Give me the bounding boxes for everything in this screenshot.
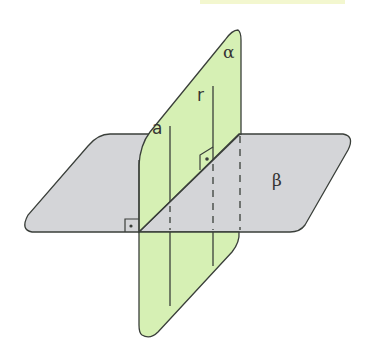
- label-alpha: α: [223, 42, 235, 62]
- label-a: a: [152, 118, 162, 138]
- label-r: r: [197, 85, 204, 105]
- plane-alpha-lower: [139, 232, 239, 337]
- label-beta: β: [272, 170, 282, 190]
- planes-diagram: α β a r: [0, 0, 375, 352]
